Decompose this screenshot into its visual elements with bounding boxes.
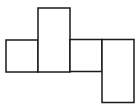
- face-middle: [70, 40, 102, 72]
- face-right-tall: [102, 40, 134, 103]
- face-tall: [38, 8, 70, 72]
- face-left: [6, 40, 38, 72]
- net-diagram: [0, 0, 137, 105]
